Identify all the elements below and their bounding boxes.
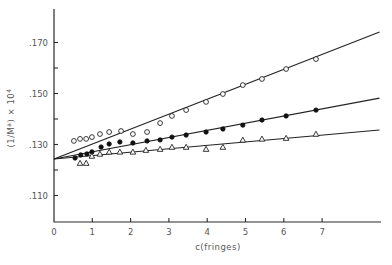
filled-circle-point [221, 127, 225, 131]
filled-circle-point [145, 139, 149, 143]
open-triangle-point [97, 151, 103, 156]
open-triangle-point [83, 160, 89, 165]
open-triangle-point [259, 136, 265, 141]
open-triangle-point [240, 137, 246, 142]
scatter-plot: 01234567.110.130.150.170 c(fringes) (1/M… [0, 0, 392, 265]
filled-circle-point [184, 133, 188, 137]
filled-circle-point [79, 153, 83, 157]
filled-circle-point [99, 145, 103, 149]
x-tick-label: 2 [128, 227, 133, 237]
x-axis-label: c(fringes) [195, 242, 241, 252]
open-triangle-point [203, 146, 209, 151]
filled-circle-point [314, 108, 318, 112]
filled-circle-point [158, 138, 162, 142]
open-triangle-point [313, 131, 319, 136]
axes: 01234567.110.130.150.170 [29, 9, 381, 237]
filled-circle-point [85, 152, 89, 156]
filled-circle-point [241, 123, 245, 127]
filled-circle-point [118, 140, 122, 144]
y-axis-label-exp: 4 [5, 88, 12, 92]
fit-lines [54, 32, 380, 159]
y-axis-label-tail: ) × 10 [6, 93, 16, 123]
x-tick-label: 5 [243, 227, 248, 237]
open-circle-point [90, 135, 95, 140]
x-tick-label: 3 [166, 227, 171, 237]
chart: 01234567.110.130.150.170 c(fringes) (1/M… [0, 0, 392, 265]
open-circle-point [98, 132, 103, 137]
open-circle-point [119, 129, 124, 134]
filled-circle-point [131, 141, 135, 145]
y-tick-label: .170 [29, 38, 48, 48]
x-tick-label: 7 [319, 227, 324, 237]
open-circle-point [260, 77, 265, 82]
x-tick-label: 1 [90, 227, 95, 237]
open-circle-point [158, 121, 163, 126]
open-circle-point [170, 114, 175, 119]
open-circle-point [72, 139, 77, 144]
filled-circle-point [73, 156, 77, 160]
y-tick-label: .150 [29, 89, 48, 99]
filled-circle-point [284, 114, 288, 118]
fit-line [54, 130, 380, 159]
open-triangle-point [106, 149, 112, 154]
x-tick-label: 0 [51, 227, 56, 237]
fit-line [54, 98, 380, 159]
open-circle-point [204, 100, 209, 105]
y-tick-label: .130 [29, 140, 48, 150]
open-circle-point [84, 136, 89, 141]
filled-circle-point [107, 142, 111, 146]
filled-circle-point [170, 135, 174, 139]
filled-circle-point [260, 118, 264, 122]
open-circle-point [145, 130, 150, 135]
filled-circle-point [204, 130, 208, 134]
open-triangle-point [157, 146, 163, 151]
x-tick-label: 6 [281, 227, 286, 237]
y-tick-label: .110 [29, 191, 48, 201]
open-triangle-point [77, 160, 83, 165]
x-tick-label: 4 [204, 227, 209, 237]
axis-lines [54, 9, 381, 222]
y-axis-label-main: (1/M [6, 127, 16, 148]
open-circle-point [130, 132, 135, 137]
open-circle-point [240, 83, 245, 88]
open-circle-point [107, 130, 112, 135]
open-triangle-point [143, 147, 149, 152]
open-circle-point [284, 67, 289, 72]
open-triangle-point [117, 149, 123, 154]
open-circle-point [78, 136, 83, 141]
y-axis-label: (1/Ma) × 104 [5, 88, 16, 147]
open-triangle-point [220, 144, 226, 149]
open-circle-point [221, 92, 226, 97]
open-circle-point [184, 108, 189, 113]
open-circle-point [314, 57, 319, 62]
open-triangle-point [169, 144, 175, 149]
fit-line [54, 32, 380, 159]
